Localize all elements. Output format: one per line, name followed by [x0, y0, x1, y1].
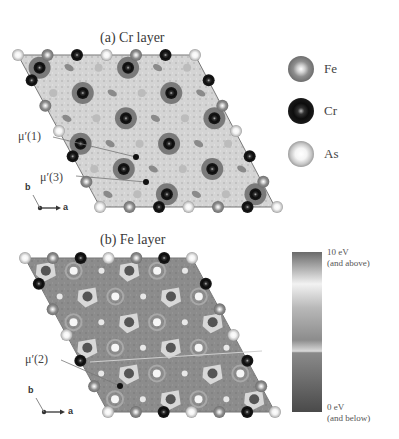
- cr-atom: [241, 355, 253, 367]
- muon-site-marker: [143, 179, 149, 185]
- cr-atom: [244, 150, 256, 162]
- cr-atom: [71, 49, 83, 61]
- legend-label-as: As: [324, 146, 338, 162]
- panel-b-axis-b: b: [28, 385, 34, 395]
- fe-atom: [216, 100, 228, 112]
- as-atom: [19, 252, 31, 264]
- fe-atom: [39, 100, 51, 112]
- fe-atom: [214, 303, 226, 315]
- fe-atom: [212, 201, 224, 213]
- as-atom: [189, 49, 201, 61]
- fe-atom: [213, 406, 225, 418]
- as-atom: [12, 49, 24, 61]
- as-atom: [271, 201, 283, 213]
- fe-atom: [257, 176, 269, 188]
- fe-atom: [47, 252, 59, 264]
- cr-atom: [33, 278, 45, 290]
- as-atom: [186, 406, 198, 418]
- cr-atom: [158, 406, 170, 418]
- cr-atom: [241, 406, 253, 418]
- panel-a-axis-indicator: [33, 195, 61, 211]
- cr-atom: [200, 278, 212, 290]
- legend-fe-icon: [288, 56, 314, 82]
- cr-atom: [242, 201, 254, 213]
- colorbar-top-sublabel: (and above): [327, 258, 370, 268]
- muon-site-marker: [133, 154, 139, 160]
- legend: [288, 56, 314, 167]
- fe-atom: [130, 49, 142, 61]
- colorbar: [292, 252, 322, 412]
- as-atom: [230, 125, 242, 137]
- muon-site-2-label: μ′(2): [25, 352, 48, 367]
- as-atom: [102, 406, 114, 418]
- panel-b-axis-a: a: [68, 406, 73, 416]
- fe-atom: [88, 380, 100, 392]
- as-atom: [53, 125, 65, 137]
- fe-atom: [124, 201, 136, 213]
- panel-b-axis-indicator: [36, 398, 65, 415]
- cr-atom: [75, 252, 87, 264]
- as-atom: [61, 329, 73, 341]
- cr-atom: [26, 74, 38, 86]
- fe-atom: [42, 49, 54, 61]
- as-atom: [101, 49, 113, 61]
- figure-canvas: [0, 0, 399, 439]
- muon-site-1-label: μ′(1): [18, 129, 41, 144]
- colorbar-bottom-label: 0 eV: [327, 402, 344, 412]
- as-atom: [103, 252, 115, 264]
- legend-label-cr: Cr: [324, 103, 337, 119]
- fe-atom: [130, 252, 142, 264]
- as-atom: [94, 201, 106, 213]
- cr-atom: [160, 49, 172, 61]
- legend-as-icon: [288, 141, 314, 167]
- colorbar-bottom-sublabel: (and below): [327, 413, 370, 423]
- colorbar-top-label: 10 eV: [327, 247, 349, 257]
- cr-atom: [153, 201, 165, 213]
- fe-atom: [47, 303, 59, 315]
- muon-site-marker: [117, 383, 123, 389]
- as-atom: [228, 329, 240, 341]
- cr-atom: [203, 74, 215, 86]
- as-atom: [183, 201, 195, 213]
- fe-atom: [130, 406, 142, 418]
- panel-a-axis-b: b: [25, 182, 31, 192]
- legend-label-fe: Fe: [324, 61, 337, 77]
- as-atom: [269, 406, 281, 418]
- fe-atom: [255, 380, 267, 392]
- muon-site-3-label: μ′(3): [40, 170, 63, 185]
- panel-b-title: (b) Fe layer: [100, 232, 165, 248]
- legend-cr-icon: [288, 98, 314, 124]
- cr-atom: [158, 252, 170, 264]
- as-atom: [186, 252, 198, 264]
- cr-atom: [74, 355, 86, 367]
- panel-a-axis-a: a: [63, 202, 68, 212]
- cr-atom: [67, 150, 79, 162]
